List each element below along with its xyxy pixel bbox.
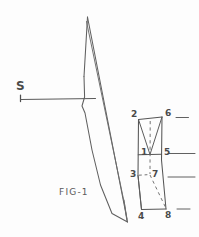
vertex-label-1: 1 <box>141 148 147 157</box>
prism-edge-lower-left-slant <box>138 176 142 210</box>
prism-group <box>138 117 195 210</box>
vertex-label-4: 4 <box>138 212 144 221</box>
source-label-s: S <box>16 80 25 92</box>
oblique-plane-group <box>82 17 128 222</box>
figure-canvas: S 2 6 1 5 3 7 4 8 FIG-1 <box>0 0 199 237</box>
vertex-label-7: 7 <box>152 170 158 179</box>
figure-linework <box>0 0 199 237</box>
prism-edge-top <box>139 117 163 120</box>
prism-edge-receding-right <box>150 117 162 155</box>
vertex-label-5: 5 <box>164 148 170 157</box>
prism-edge-bottom-front <box>142 209 167 210</box>
vertex-label-3: 3 <box>130 170 136 179</box>
vertex-label-8: 8 <box>165 211 171 220</box>
vertex-label-6: 6 <box>165 109 171 118</box>
prism-edge-right-front <box>162 117 167 209</box>
plane-tail-line <box>124 200 127 222</box>
figure-caption: FIG-1 <box>59 188 89 197</box>
prism-hidden-edge-stub <box>139 175 149 176</box>
vertex-label-2: 2 <box>131 110 137 119</box>
